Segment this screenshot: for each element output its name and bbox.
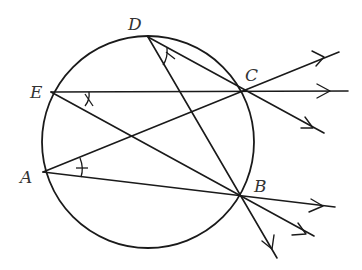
ray-E-B xyxy=(51,92,314,236)
label-D: D xyxy=(127,14,142,34)
arrowhead-D-C-icon xyxy=(301,117,313,128)
angle-mark-E-icon xyxy=(85,92,93,106)
geometry-diagram: D E C A B xyxy=(0,0,362,270)
label-E: E xyxy=(29,82,43,102)
label-B: B xyxy=(253,176,267,196)
label-C: C xyxy=(245,65,258,85)
circle xyxy=(42,36,254,248)
angle-mark-A-icon xyxy=(76,158,88,177)
arrowhead-A-C-icon xyxy=(312,51,324,66)
label-A: A xyxy=(18,167,32,187)
ray-A-B xyxy=(43,172,335,207)
ray-E-C xyxy=(51,91,348,92)
